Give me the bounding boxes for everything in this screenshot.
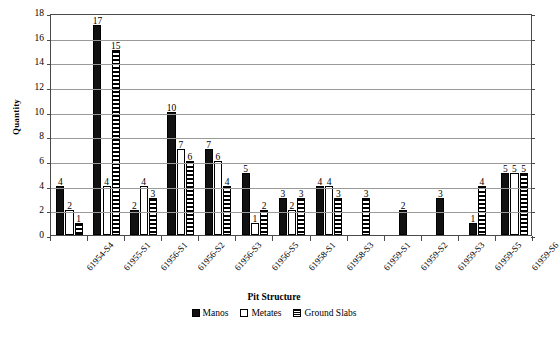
- y-axis-tick-10: 10: [18, 108, 44, 118]
- bar-value-label: 2: [132, 201, 137, 211]
- bar-metates: 6: [214, 161, 222, 235]
- legend-item-manos[interactable]: Manos: [192, 308, 229, 318]
- legend-label: Ground Slabs: [304, 308, 356, 318]
- x-axis-label-61959-S3: 61959-S3: [455, 240, 486, 273]
- x-axis-label-61959-S6: 61959-S6: [529, 240, 560, 273]
- y-tick-mark-10: [47, 114, 51, 115]
- bar-value-label: 2: [290, 201, 295, 211]
- legend-swatch-icon: [293, 309, 301, 317]
- bar-ground-slabs: 4: [478, 186, 486, 235]
- bar-value-label: 3: [438, 189, 443, 199]
- x-axis-label-61958-S3: 61958-S3: [344, 240, 375, 273]
- y-tick-mark-right-2: [531, 212, 535, 213]
- bar-value-label: 17: [93, 16, 103, 26]
- y-tick-mark-right-6: [531, 163, 535, 164]
- bar-value-label: 3: [299, 189, 304, 199]
- gridline-4: [51, 188, 531, 189]
- bar-metates: 4: [140, 186, 148, 235]
- bar-value-label: 4: [327, 177, 332, 187]
- y-tick-mark-6: [47, 163, 51, 164]
- bar-value-label: 2: [262, 201, 267, 211]
- bar-value-label: 3: [150, 189, 155, 199]
- bar-manos: 5: [501, 173, 509, 235]
- y-tick-mark-right-4: [531, 188, 535, 189]
- bar-value-label: 1: [470, 214, 475, 224]
- y-axis-tick-6: 6: [18, 157, 44, 167]
- x-axis-label-61956-S2: 61956-S2: [196, 240, 227, 273]
- bar-group: 3: [348, 15, 385, 235]
- y-tick-mark-2: [47, 212, 51, 213]
- bar-group: 1076: [162, 15, 199, 235]
- bar-value-label: 2: [401, 201, 406, 211]
- x-axis-label-61956-S3: 61956-S3: [233, 240, 264, 273]
- y-axis-tick-0: 0: [18, 231, 44, 241]
- bar-metates: 4: [325, 186, 333, 235]
- bar-value-label: 4: [58, 177, 63, 187]
- gridline-8: [51, 138, 531, 139]
- legend-label: Metates: [251, 308, 281, 318]
- bar-value-label: 4: [141, 177, 146, 187]
- bar-value-label: 3: [364, 189, 369, 199]
- bar-group: 421: [51, 15, 88, 235]
- y-tick-mark-right-8: [531, 138, 535, 139]
- bar-metates: 2: [288, 210, 296, 235]
- y-axis-tick-12: 12: [18, 83, 44, 93]
- y-tick-mark-14: [47, 64, 51, 65]
- bar-ground-slabs: 3: [334, 198, 342, 235]
- bar-value-label: 3: [280, 189, 285, 199]
- gridline-16: [51, 40, 531, 41]
- bar-group: 17415: [88, 15, 125, 235]
- bar-manos: 4: [316, 186, 324, 235]
- bar-value-label: 2: [67, 201, 72, 211]
- bar-value-label: 6: [215, 152, 220, 162]
- bar-manos: 2: [399, 210, 407, 235]
- bar-manos: 3: [436, 198, 444, 235]
- bar-group: 443: [311, 15, 348, 235]
- y-axis-tick-8: 8: [18, 132, 44, 142]
- bar-value-label: 15: [111, 41, 121, 51]
- bar-ground-slabs: 1: [75, 223, 83, 235]
- bar-manos: 2: [130, 210, 138, 235]
- bar-group: 2: [385, 15, 422, 235]
- bar-group: 512: [236, 15, 273, 235]
- y-tick-mark-right-12: [531, 89, 535, 90]
- bar-group: 764: [199, 15, 236, 235]
- gridline-12: [51, 89, 531, 90]
- bar-value-label: 5: [512, 164, 517, 174]
- bar-ground-slabs: 2: [260, 210, 268, 235]
- legend-item-ground-slabs[interactable]: Ground Slabs: [293, 308, 356, 318]
- bar-value-label: 6: [188, 152, 193, 162]
- bar-manos: 5: [242, 173, 250, 235]
- bar-manos: 4: [56, 186, 64, 235]
- bar-ground-slabs: 6: [186, 161, 194, 235]
- bar-manos: 3: [279, 198, 287, 235]
- bar-value-label: 1: [76, 214, 81, 224]
- y-tick-mark-right-14: [531, 64, 535, 65]
- legend-label: Manos: [203, 308, 229, 318]
- legend-swatch-icon: [192, 309, 200, 317]
- bar-value-label: 10: [167, 103, 177, 113]
- y-axis-tick-14: 14: [18, 58, 44, 68]
- bar-value-label: 4: [480, 177, 485, 187]
- bar-value-label: 1: [253, 214, 258, 224]
- bar-value-label: 5: [243, 164, 248, 174]
- x-axis-label-61956-S5: 61956-S5: [270, 240, 301, 273]
- bar-value-label: 7: [178, 140, 183, 150]
- bar-groups: 42117415243107676451232344332314555: [51, 15, 531, 235]
- bar-metates: 2: [65, 210, 73, 235]
- bar-manos: 17: [93, 25, 101, 235]
- gridline-10: [51, 114, 531, 115]
- gridline-2: [51, 212, 531, 213]
- y-tick-mark-8: [47, 138, 51, 139]
- y-axis-tick-2: 2: [18, 206, 44, 216]
- y-tick-mark-18: [47, 15, 51, 16]
- y-tick-mark-12: [47, 89, 51, 90]
- bar-group: 555: [496, 15, 533, 235]
- bar-ground-slabs: 3: [297, 198, 305, 235]
- bar-metates: 4: [103, 186, 111, 235]
- x-axis-label-61956-S1: 61956-S1: [159, 240, 190, 273]
- bar-manos: 1: [469, 223, 477, 235]
- bar-group: 323: [273, 15, 310, 235]
- y-axis-tick-labels: 024681012141618: [18, 14, 44, 236]
- legend-item-metates[interactable]: Metates: [240, 308, 281, 318]
